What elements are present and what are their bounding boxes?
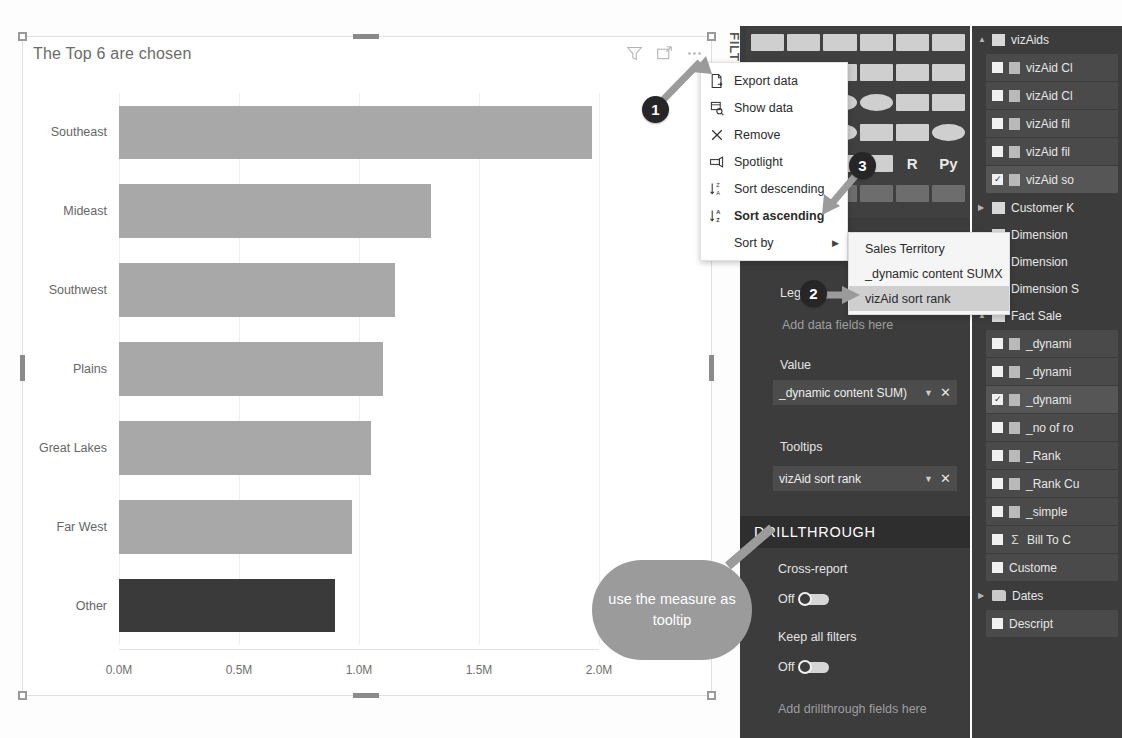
field-checkbox[interactable] [992,450,1003,461]
field-checkbox[interactable] [992,534,1003,545]
selection-handle-top-right[interactable] [707,32,716,41]
field-checkbox[interactable] [992,146,1003,157]
selection-handle-left[interactable] [20,355,25,381]
selection-handle-bottom[interactable] [353,693,379,698]
fields-field-row[interactable]: _dynami [986,330,1118,357]
fields-field-row[interactable]: _simple [986,498,1118,525]
cross-report-toggle[interactable]: Off [778,592,829,606]
sort-by-option[interactable]: vizAid sort rank [849,286,1009,311]
bar[interactable] [119,579,335,633]
map-icon[interactable] [932,94,965,111]
filter-icon[interactable] [626,45,643,62]
bar-row[interactable]: Other [119,579,599,633]
bar[interactable] [119,342,383,396]
context-menu-item-export-data[interactable]: Export data [701,67,847,94]
drillthrough-placeholder[interactable]: Add drillthrough fields here [778,702,927,716]
field-checkbox[interactable] [992,118,1003,129]
globe-map-icon[interactable] [932,124,965,141]
context-menu-item-remove[interactable]: Remove [701,121,847,148]
field-checkbox[interactable] [992,366,1003,377]
treemap-icon[interactable] [896,94,929,111]
toggle-track[interactable] [799,662,829,673]
field-checkbox[interactable] [992,90,1003,101]
get-more-visuals-icon[interactable] [932,185,965,202]
field-checkbox[interactable]: ✓ [992,394,1003,405]
bar-row[interactable]: Southwest [119,263,599,317]
toggle-track[interactable] [799,594,829,605]
context-menu-item-show-data[interactable]: Show data [701,94,847,121]
bar[interactable] [119,421,371,475]
fields-table-row[interactable]: ▶Dates [972,582,1122,609]
bar-row[interactable]: Plains [119,342,599,396]
clustered-bar-chart-icon[interactable] [823,34,856,51]
field-checkbox[interactable]: ✓ [992,174,1003,185]
field-checkbox[interactable] [992,62,1003,73]
fields-field-row[interactable]: vizAid fil [986,110,1118,137]
bar[interactable] [119,106,592,160]
remove-field-icon[interactable]: ✕ [940,471,951,486]
context-menu-item-sort-by[interactable]: Sort by▶ [701,229,847,256]
r-script-visual-icon[interactable]: R [896,155,929,172]
100-stacked-bar-icon[interactable] [896,34,929,51]
keep-all-filters-toggle[interactable]: Off [778,660,829,674]
multi-row-card-icon[interactable] [896,124,929,141]
bar-row[interactable]: Mideast [119,184,599,238]
fields-field-row[interactable]: _dynami [986,358,1118,385]
sort-by-option[interactable]: _dynamic content SUMX [849,261,1009,286]
bar-row[interactable]: Southeast [119,106,599,160]
line-and-stacked-column-icon[interactable] [860,64,893,81]
context-menu-item-sort-descending[interactable]: ZASort descending [701,175,847,202]
context-menu-item-sort-ascending[interactable]: AZSort ascending [701,202,847,229]
bar[interactable] [119,500,352,554]
fields-field-row[interactable]: ✓_dynami [986,386,1118,413]
fields-field-row[interactable]: ✓vizAid so [986,166,1118,193]
sort-by-submenu[interactable]: Sales Territory_dynamic content SUMXvizA… [848,232,1010,315]
legend-well-placeholder[interactable]: Add data fields here [782,318,893,332]
fields-field-row[interactable]: _no of ro [986,414,1118,441]
stacked-column-chart-icon[interactable] [787,34,820,51]
field-checkbox[interactable] [992,618,1003,629]
remove-field-icon[interactable]: ✕ [940,385,951,400]
chevron-down-icon[interactable]: ▼ [924,474,933,484]
field-checkbox[interactable] [992,338,1003,349]
fields-field-row[interactable]: Descript [986,610,1118,637]
smart-narrative-icon[interactable] [860,185,893,202]
stacked-bar-chart-icon[interactable] [751,34,784,51]
fields-pane[interactable]: ▲vizAidsvizAid ClvizAid ClvizAid filvizA… [972,26,1122,738]
chevron-right-icon[interactable]: ▶ [978,591,986,600]
field-checkbox[interactable] [992,478,1003,489]
fields-field-row[interactable]: _Rank [986,442,1118,469]
visual-context-menu[interactable]: Export dataShow dataRemoveSpotlightZASor… [700,62,848,261]
value-well-chip[interactable]: _dynamic content SUM) ▼ ✕ [773,380,957,405]
selection-handle-top[interactable] [353,34,379,39]
sort-by-option[interactable]: Sales Territory [849,236,1009,261]
fields-table-row[interactable]: ▶Customer K [972,194,1122,221]
more-options-icon[interactable] [686,45,703,62]
donut-chart-icon[interactable] [860,94,893,111]
clustered-column-chart-icon[interactable] [860,34,893,51]
selection-handle-bottom-right[interactable] [707,691,716,700]
field-checkbox[interactable] [992,562,1003,573]
selection-handle-right[interactable] [709,355,714,381]
fields-field-row[interactable]: vizAid Cl [986,82,1118,109]
ribbon-chart-icon[interactable] [932,64,965,81]
fields-field-row[interactable]: ΣBill To C [986,526,1118,553]
bar-row[interactable]: Far West [119,500,599,554]
fields-table-row[interactable]: ▲vizAids [972,26,1122,53]
field-checkbox[interactable] [992,422,1003,433]
card-icon[interactable] [860,124,893,141]
bar[interactable] [119,263,395,317]
python-visual-icon[interactable]: Py [932,155,965,172]
paginated-report-icon[interactable] [896,185,929,202]
chevron-right-icon[interactable]: ▶ [978,203,986,212]
chevron-down-icon[interactable]: ▼ [924,388,933,398]
100-stacked-column-icon[interactable] [932,34,965,51]
fields-field-row[interactable]: vizAid Cl [986,54,1118,81]
chevron-up-icon[interactable]: ▲ [978,35,986,44]
focus-mode-icon[interactable] [656,45,673,62]
selection-handle-top-left[interactable] [18,32,27,41]
field-checkbox[interactable] [992,506,1003,517]
tooltips-well-chip[interactable]: vizAid sort rank ▼ ✕ [773,466,957,491]
context-menu-item-spotlight[interactable]: Spotlight [701,148,847,175]
selection-handle-bottom-left[interactable] [18,691,27,700]
